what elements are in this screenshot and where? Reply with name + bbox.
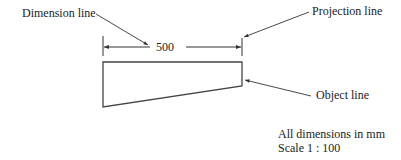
object-line-leader <box>245 80 311 96</box>
projection-line-leader <box>244 12 309 37</box>
dimension-line-label: Dimension line <box>22 6 96 20</box>
object-outline <box>103 62 242 107</box>
object-line-label: Object line <box>316 88 369 102</box>
dimension-line-leader <box>96 14 148 45</box>
units-note: All dimensions in mm <box>278 127 385 141</box>
projection-line-label: Projection line <box>312 4 382 18</box>
scale-note: Scale 1 : 100 <box>278 141 340 155</box>
dimension-value: 500 <box>156 40 174 54</box>
drawing-canvas: Dimension line Projection line 500 Objec… <box>0 0 401 160</box>
